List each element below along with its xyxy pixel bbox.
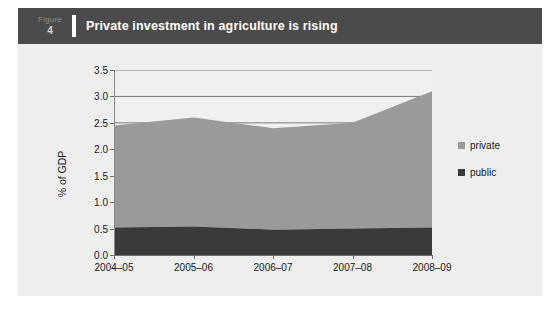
- figure-panel: Figure 4 Private investment in agricultu…: [0, 0, 560, 314]
- y-axis-tick-labels: 3.5 3.0 2.5 2.0 1.5 1.0 0.5 0.0: [74, 44, 108, 296]
- y-tick-label: 2.0: [94, 144, 108, 155]
- x-tick-label: 2008–09: [413, 262, 452, 273]
- y-tick-label: 0.0: [94, 250, 108, 261]
- figure-number: 4: [47, 26, 53, 36]
- x-tick-mark: [353, 255, 354, 259]
- y-tick-label: 2.5: [94, 117, 108, 128]
- plot-region: [114, 70, 432, 255]
- x-tick-label: 2007–08: [333, 262, 372, 273]
- x-tick-mark: [432, 255, 433, 259]
- legend-swatch-private: [458, 142, 465, 149]
- legend-label-public: public: [470, 167, 496, 178]
- figure-number-block: Figure 4: [18, 16, 70, 36]
- y-tick-label: 1.5: [94, 170, 108, 181]
- series-area-private: [114, 91, 432, 229]
- y-tick-label: 3.0: [94, 91, 108, 102]
- x-tick-label: 2005–06: [174, 262, 213, 273]
- x-tick-mark: [273, 255, 274, 259]
- page-title: Private investment in agriculture is ris…: [86, 19, 338, 33]
- figure-header: Figure 4 Private investment in agricultu…: [18, 8, 542, 44]
- y-axis-line: [114, 70, 115, 256]
- x-tick-label: 2004–05: [95, 262, 134, 273]
- chart-area: % of GDP 3.5 3.0 2.5 2.0 1.5 1.0 0.5 0.0: [18, 44, 542, 296]
- x-tick-mark: [114, 255, 115, 259]
- y-tick-label: 3.5: [94, 65, 108, 76]
- legend-label-private: private: [470, 140, 500, 151]
- x-tick-mark: [194, 255, 195, 259]
- series-area-public: [114, 226, 432, 255]
- legend-swatch-public: [458, 169, 465, 176]
- y-tick-label: 0.5: [94, 223, 108, 234]
- y-tick-label: 1.0: [94, 197, 108, 208]
- area-chart-svg: [114, 70, 432, 255]
- y-axis-label: % of GDP: [56, 129, 68, 219]
- legend-item-private[interactable]: private: [458, 140, 500, 151]
- header-divider: [72, 15, 76, 37]
- legend-item-public[interactable]: public: [458, 167, 500, 178]
- chart-legend: private public: [458, 140, 500, 194]
- figure-label: Figure: [38, 16, 62, 24]
- x-tick-label: 2006–07: [254, 262, 293, 273]
